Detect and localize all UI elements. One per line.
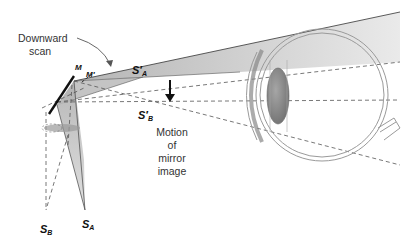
label-m: M	[75, 63, 82, 72]
label-m-prime: M′	[86, 70, 96, 79]
label-mirror: mirror	[158, 152, 186, 164]
label-sb-prime: S′B	[138, 109, 153, 122]
label-of: of	[168, 139, 177, 151]
label-scan: scan	[29, 45, 51, 57]
scanning-mirror-diagram: Downward scan M M′ S′A S′B Motion of mir…	[0, 0, 404, 246]
motion-arrow	[165, 80, 175, 102]
label-downward: Downward	[18, 32, 68, 44]
label-sa: SA	[82, 218, 94, 231]
label-motion: Motion	[156, 126, 188, 138]
label-image: image	[158, 165, 187, 177]
label-sb: SB	[40, 223, 52, 236]
reflected-beam-sa	[57, 12, 400, 105]
downward-scan-arrow	[77, 38, 113, 67]
